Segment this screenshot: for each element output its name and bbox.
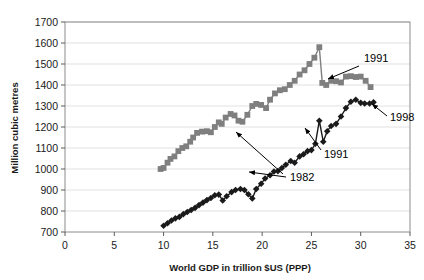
y-tick-label: 1600 xyxy=(35,37,59,49)
x-tick-label: 0 xyxy=(62,239,68,251)
annotation-label: 1991 xyxy=(324,148,348,160)
y-axis-tick-labels: 7008009001000110012001300140015001600170… xyxy=(35,16,59,238)
x-tick-label: 35 xyxy=(404,239,416,251)
x-axis-ticks xyxy=(65,232,410,236)
y-tick-label: 900 xyxy=(40,184,58,196)
grid-lines xyxy=(65,22,410,211)
data-point xyxy=(219,121,225,127)
y-tick-label: 1300 xyxy=(35,100,59,112)
y-axis-title: Million cubic metres xyxy=(9,82,20,173)
annotation-arrow xyxy=(236,132,283,174)
y-tick-label: 1400 xyxy=(35,79,59,91)
data-point xyxy=(161,165,167,171)
x-tick-label: 10 xyxy=(158,239,170,251)
data-point xyxy=(363,78,369,84)
x-tick-label: 20 xyxy=(256,239,268,251)
data-point xyxy=(244,112,250,118)
y-tick-label: 1500 xyxy=(35,58,59,70)
data-point xyxy=(368,84,374,90)
series-lower-series xyxy=(160,96,377,229)
y-tick-label: 1700 xyxy=(35,16,59,28)
annotation-label: 1998 xyxy=(390,111,414,123)
data-point xyxy=(172,154,178,160)
annotation-label: 1991 xyxy=(364,52,388,64)
data-point xyxy=(302,67,308,73)
x-tick-label: 30 xyxy=(355,239,367,251)
data-point xyxy=(338,80,344,86)
x-tick-label: 25 xyxy=(306,239,318,251)
y-axis-ticks xyxy=(61,22,65,232)
x-tick-label: 5 xyxy=(111,239,117,251)
data-point xyxy=(292,78,298,84)
y-tick-label: 1000 xyxy=(35,163,59,175)
data-point xyxy=(316,44,322,50)
data-point xyxy=(240,119,246,125)
data-point xyxy=(232,113,238,119)
y-tick-label: 800 xyxy=(40,205,58,217)
y-tick-label: 1200 xyxy=(35,121,59,133)
data-point xyxy=(320,138,327,145)
data-point xyxy=(311,55,317,61)
x-axis-title: World GDP in trillion $US (PPP) xyxy=(169,262,311,273)
annotation-layer: 1991199819911982 xyxy=(236,52,414,183)
x-axis-tick-labels: 05101520253035 xyxy=(62,239,416,251)
data-point xyxy=(208,129,214,135)
data-point xyxy=(307,61,313,67)
x-tick-label: 15 xyxy=(207,239,219,251)
annotation-label: 1982 xyxy=(290,171,314,183)
data-point xyxy=(316,117,323,124)
data-point xyxy=(263,105,269,111)
scatter-chart: 7008009001000110012001300140015001600170… xyxy=(0,0,424,280)
data-point xyxy=(267,97,273,103)
y-tick-label: 1100 xyxy=(35,142,58,154)
chart-container: 7008009001000110012001300140015001600170… xyxy=(0,0,424,280)
y-tick-label: 700 xyxy=(40,226,58,238)
